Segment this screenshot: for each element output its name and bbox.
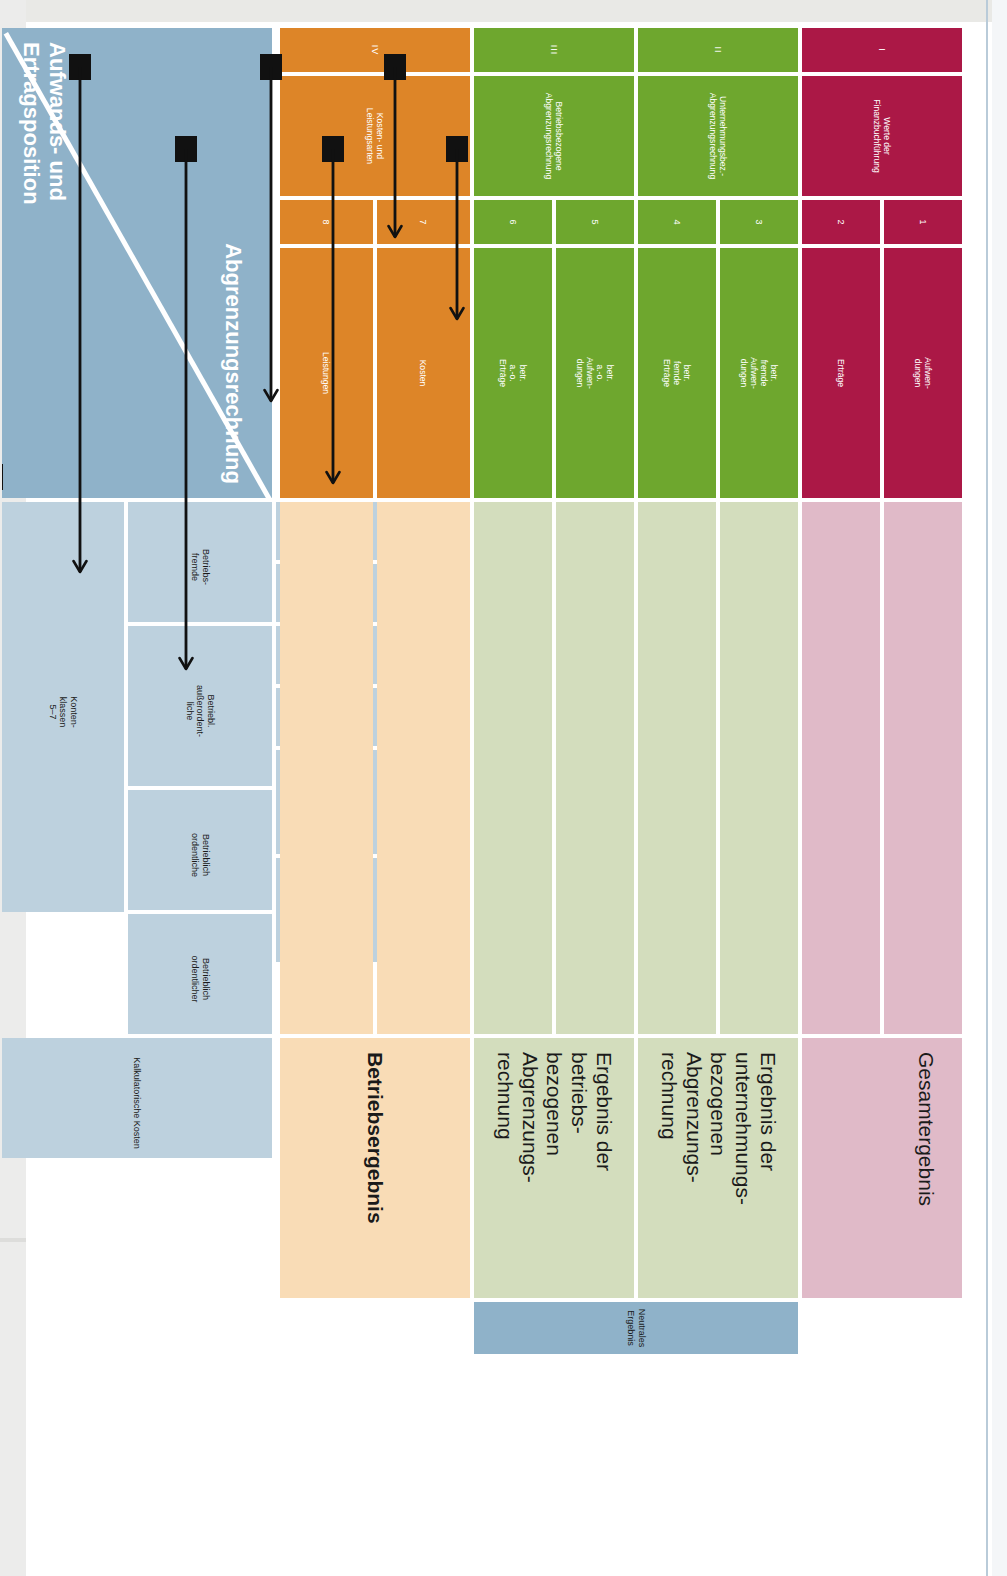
scan-edge-top bbox=[0, 0, 1007, 22]
flow-arrow-svg bbox=[2, 28, 962, 1548]
scan-edge-right bbox=[992, 0, 1007, 1576]
scan-hairline bbox=[986, 0, 988, 1576]
screenshot-canvas: Abgrenzungsrechnung Aufwands- und Ertrag… bbox=[0, 0, 1007, 1576]
flow-arrows bbox=[2, 28, 962, 1548]
abgrenzungsrechnung-diagram: Abgrenzungsrechnung Aufwands- und Ertrag… bbox=[2, 28, 962, 1548]
flow-tail-marker bbox=[2, 464, 3, 490]
